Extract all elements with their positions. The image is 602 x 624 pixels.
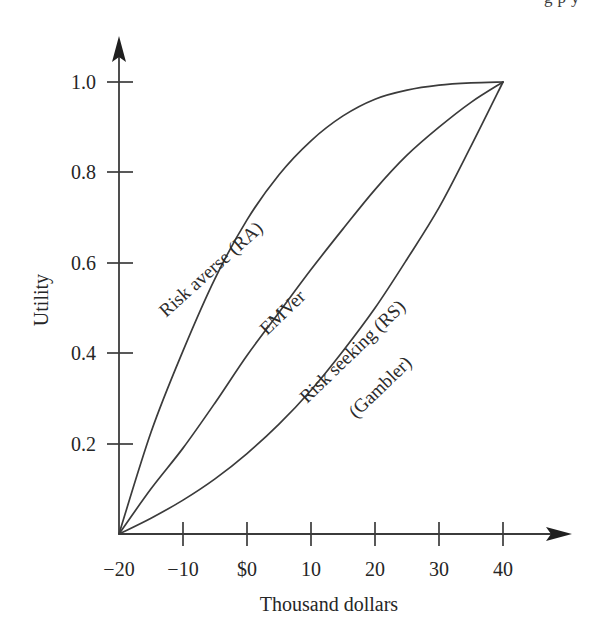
x-tick-label--10: −10 (167, 558, 198, 580)
x-tick-label-30: 30 (429, 558, 449, 580)
x-axis (119, 527, 572, 541)
y-tick-label-1.0: 1.0 (71, 71, 96, 93)
utility-curves-plot: 1.0 0.8 0.6 0.4 0.2 −20 −10 $0 10 20 30 … (0, 0, 602, 624)
curve-labels-group: Risk averse (RA) EMVer Risk seeking (RS)… (155, 217, 417, 423)
utility-chart-figure: g p y 1.0 0.8 0.6 0.4 0.2 (0, 0, 602, 624)
y-tick-label-0.8: 0.8 (71, 161, 96, 183)
x-tick-label-10: 10 (301, 558, 321, 580)
y-axis-title: Utility (30, 274, 53, 326)
curve-label-risk-averse: Risk averse (RA) (155, 217, 268, 322)
y-tick-label-0.6: 0.6 (71, 252, 96, 274)
x-tick-label-40: 40 (493, 558, 513, 580)
x-tick-label-0: $0 (237, 558, 257, 580)
x-axis-title: Thousand dollars (260, 593, 399, 615)
x-axis-tick-labels: −20 −10 $0 10 20 30 40 (103, 558, 513, 580)
y-axis-ticks (107, 82, 133, 444)
curve-label-emver: EMVer (255, 285, 310, 339)
y-axis-tick-labels: 1.0 0.8 0.6 0.4 0.2 (71, 71, 96, 455)
x-tick-label--20: −20 (103, 558, 134, 580)
y-axis (112, 36, 126, 534)
x-tick-label-20: 20 (365, 558, 385, 580)
y-tick-label-0.2: 0.2 (71, 433, 96, 455)
y-tick-label-0.4: 0.4 (71, 342, 96, 364)
curve-label-risk-seeking: Risk seeking (RS) (295, 296, 410, 408)
